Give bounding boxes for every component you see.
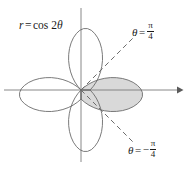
curve-function-name: cos — [33, 19, 48, 31]
theta-negative-sign: − — [143, 143, 150, 155]
theta-negative-numerator: π — [150, 139, 157, 148]
theta-negative-denominator: 4 — [150, 150, 157, 159]
theta-positive-fraction: π 4 — [147, 21, 155, 42]
theta-negative-label: θ=− π 4 — [128, 139, 157, 160]
theta-positive-equals-sign: = — [137, 26, 146, 38]
theta-negative-equals-sign: = — [133, 144, 142, 156]
curve-equals-sign: = — [23, 19, 33, 31]
x-axis-arrowhead — [177, 86, 184, 93]
theta-positive-numerator: π — [147, 21, 154, 30]
theta-negative-fraction: π 4 — [149, 139, 157, 160]
petal-left — [20, 78, 81, 112]
theta-positive-denominator: 4 — [147, 32, 154, 41]
theta-positive-label: θ= π 4 — [132, 21, 154, 42]
polar-rose-figure: r=cos 2θ θ= π 4 θ=− π 4 — [0, 0, 186, 169]
curve-equation-label: r=cos 2θ — [19, 20, 63, 32]
curve-argument-symbol: θ — [57, 19, 63, 31]
